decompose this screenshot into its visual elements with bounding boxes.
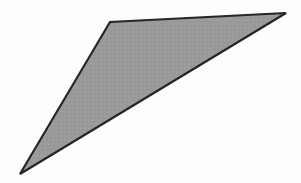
figure-canvas [0, 0, 301, 183]
figure-svg [0, 0, 301, 183]
